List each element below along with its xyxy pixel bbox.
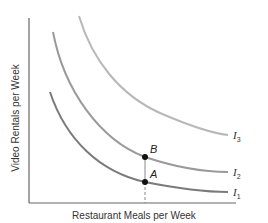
y-axis-label: Video Rentals per Week	[10, 63, 21, 171]
indifference-curve-i1	[50, 92, 228, 192]
indifference-curve-i3	[79, 16, 228, 135]
curve-label-i1: I1	[232, 186, 241, 200]
curve-label-i2: I2	[232, 166, 241, 180]
point-a-label: A	[149, 168, 157, 180]
curve-label-i3: I3	[232, 129, 241, 143]
indifference-curve-diagram: B A I3 I2 I1 Restaurant Meals per Week V…	[0, 0, 268, 223]
x-axis-label: Restaurant Meals per Week	[72, 210, 197, 221]
point-a	[142, 179, 148, 185]
point-b-label: B	[150, 143, 157, 155]
point-b	[142, 154, 148, 160]
